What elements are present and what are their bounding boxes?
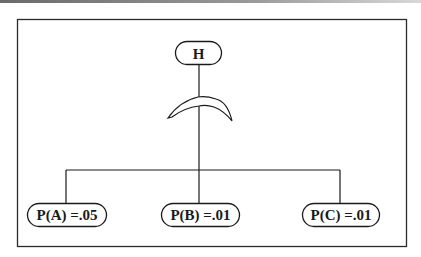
node-a[interactable]: P(A) =.05 xyxy=(28,204,107,227)
node-root-label: H xyxy=(193,46,205,62)
and-gate-arc-icon xyxy=(168,97,232,121)
node-c-label: P(C) =.01 xyxy=(310,207,371,224)
node-root[interactable]: H xyxy=(176,42,222,65)
node-c[interactable]: P(C) =.01 xyxy=(303,204,380,227)
edges xyxy=(66,65,340,203)
tree-diagram: H P(A) =.05 P(B) =.01 P(C) =.01 xyxy=(0,0,421,257)
node-b-label: P(B) =.01 xyxy=(170,207,230,224)
node-a-label: P(A) =.05 xyxy=(36,207,97,224)
node-b[interactable]: P(B) =.01 xyxy=(162,204,240,227)
